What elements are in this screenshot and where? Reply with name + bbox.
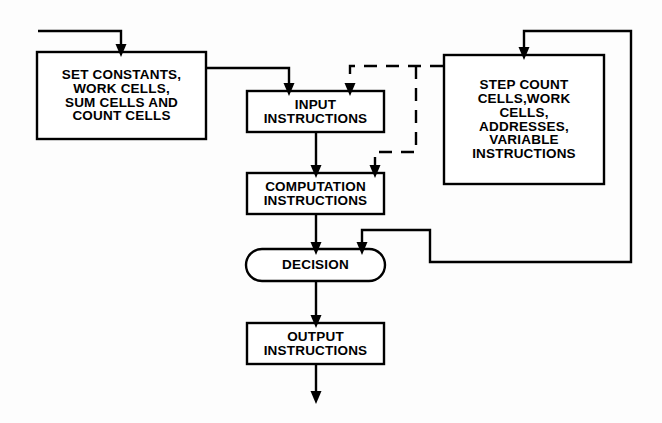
node-shape-set-constants (37, 52, 206, 139)
edge-step-count-dashed-to-input (350, 66, 443, 83)
edge-set-constants-to-input (207, 68, 289, 83)
flowchart-canvas: SET CONSTANTS,WORK CELLS,SUM CELLS ANDCO… (0, 0, 662, 423)
node-shape-input-instructions (247, 91, 384, 132)
edge-decision-to-step-count-right (362, 185, 631, 262)
flowchart-connectors (0, 0, 662, 423)
edge-entry-to-set-constants (38, 31, 121, 44)
arrowhead-output-to-exit (311, 391, 322, 404)
node-shape-output-instructions (247, 323, 384, 364)
node-shape-step-count (444, 55, 604, 184)
node-shape-computation-instructions (247, 173, 384, 214)
